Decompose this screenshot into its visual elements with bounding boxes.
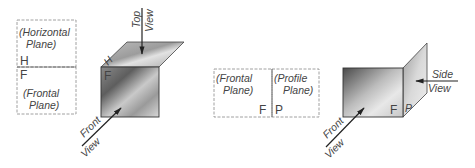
front-view-label-1-left: Front [77,113,104,140]
frontal-plane-label-right-1: (Frontal [216,72,253,84]
front-view-label-2-left: View [78,134,103,159]
horizontal-plane-label-1: (Horizontal [19,26,70,38]
frontal-plane-label-2: Plane) [29,99,59,111]
profile-plane-label-1: (Profile [274,72,307,84]
side-face-letter: P [405,102,412,114]
front-view-label-1-right: Front [320,114,347,141]
right-pictorial: F P Side View Front View [320,43,458,160]
left-fold-diagram: (Horizontal Plane) H F (Frontal Plane) [17,20,76,114]
profile-plane-label-2: Plane) [283,84,313,96]
horizontal-plane-label-2: Plane) [26,38,56,50]
front-face-letter: F [104,69,111,83]
f-letter-right: F [259,103,266,117]
right-fold-diagram: (Frontal Plane) F (Profile Plane) P [214,69,319,117]
top-view-label-2: View [143,8,155,32]
f-letter: F [20,68,27,82]
top-view-label-1: Top [130,11,142,28]
frontal-plane-label-1: (Frontal [23,87,60,99]
p-letter: P [275,103,283,117]
frontal-plane-label-right-2: Plane) [223,84,253,96]
side-view-label-1: Side [432,68,453,80]
h-letter: H [20,54,29,68]
orthographic-projection-diagram: (Horizontal Plane) H F (Frontal Plane) F… [0,0,475,168]
front-face-letter-right: F [390,103,397,117]
left-pictorial: F H Top View Front View [77,8,184,159]
side-view-label-2: View [428,82,452,94]
